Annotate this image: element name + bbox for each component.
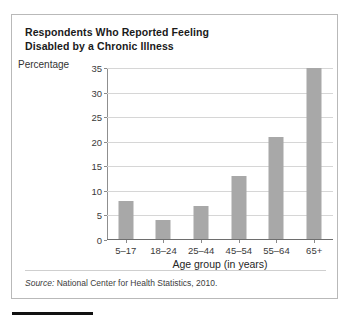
source-text: National Center for Health Statistics, 2… bbox=[57, 278, 218, 288]
x-tick-label: 18–24 bbox=[150, 245, 176, 256]
chart-title: Respondents Who Reported Feeling Disable… bbox=[25, 25, 305, 53]
bar-series: 5–1718–2425–4445–5455–6465+ bbox=[107, 68, 333, 240]
x-axis-label: Age group (in years) bbox=[107, 258, 333, 270]
bar-group: 65+ bbox=[295, 68, 333, 240]
x-tick-label: 5–17 bbox=[115, 245, 136, 256]
y-axis-label: Percentage bbox=[18, 59, 69, 70]
chart-title-line-1: Respondents Who Reported Feeling bbox=[25, 25, 305, 39]
source-divider bbox=[25, 270, 326, 271]
x-tick-mark bbox=[314, 240, 315, 243]
bar bbox=[231, 176, 246, 240]
figure-frame: Respondents Who Reported Feeling Disable… bbox=[11, 14, 338, 299]
bar bbox=[118, 201, 133, 240]
bar-group: 45–54 bbox=[220, 68, 258, 240]
y-tick-label: 20 bbox=[91, 136, 102, 147]
x-tick-label: 25–44 bbox=[188, 245, 214, 256]
y-tick-label: 15 bbox=[91, 161, 102, 172]
y-tick-label: 0 bbox=[97, 235, 102, 246]
y-tick-label: 35 bbox=[91, 63, 102, 74]
y-tick-label: 5 bbox=[97, 210, 102, 221]
bar bbox=[307, 68, 322, 240]
bar bbox=[194, 206, 209, 240]
plot-area: 05101520253035 5–1718–2425–4445–5455–646… bbox=[107, 68, 333, 240]
bar-group: 55–64 bbox=[258, 68, 296, 240]
x-tick-mark bbox=[201, 240, 202, 243]
x-tick-mark bbox=[126, 240, 127, 243]
source-prefix: Source: bbox=[25, 278, 54, 288]
x-tick-mark bbox=[163, 240, 164, 243]
bar bbox=[156, 220, 171, 240]
gridline bbox=[107, 240, 333, 241]
x-axis-line bbox=[107, 239, 333, 241]
x-tick-label: 55–64 bbox=[263, 245, 289, 256]
chart-title-line-2: Disabled by a Chronic Illness bbox=[25, 39, 305, 53]
y-tick-label: 10 bbox=[91, 185, 102, 196]
source-note: Source: National Center for Health Stati… bbox=[25, 278, 217, 288]
bar-group: 18–24 bbox=[145, 68, 183, 240]
x-tick-label: 65+ bbox=[306, 245, 322, 256]
page-rule-mark bbox=[12, 312, 93, 315]
y-tick-label: 30 bbox=[91, 87, 102, 98]
x-tick-label: 45–54 bbox=[226, 245, 252, 256]
bar bbox=[269, 137, 284, 240]
bar-group: 25–44 bbox=[182, 68, 220, 240]
x-tick-mark bbox=[276, 240, 277, 243]
x-tick-mark bbox=[239, 240, 240, 243]
bar-group: 5–17 bbox=[107, 68, 145, 240]
y-tick-mark bbox=[104, 240, 107, 241]
y-tick-label: 25 bbox=[91, 112, 102, 123]
